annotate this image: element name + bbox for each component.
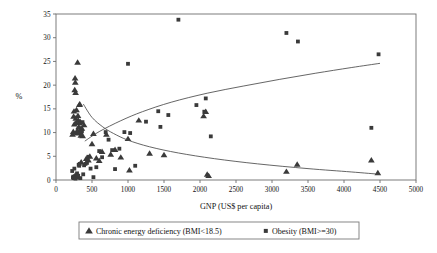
data-point-square xyxy=(72,167,76,171)
data-point-square xyxy=(195,103,199,107)
data-point-square xyxy=(144,120,148,124)
data-point-triangle xyxy=(294,161,301,166)
x-tick-label: 0 xyxy=(54,186,58,194)
x-tick-label: 2000 xyxy=(193,186,208,194)
data-point-square xyxy=(209,134,213,138)
data-point-square xyxy=(202,110,206,114)
data-point-triangle xyxy=(117,154,124,159)
data-point-triangle xyxy=(107,151,114,156)
x-tick-label: 5000 xyxy=(409,186,424,194)
data-point-square xyxy=(104,130,108,134)
data-point-square xyxy=(126,62,130,66)
data-point-square xyxy=(92,175,96,179)
data-point-square xyxy=(117,147,121,151)
data-point-square xyxy=(123,130,127,134)
data-point-square xyxy=(89,167,93,171)
data-point-triangle xyxy=(89,141,96,146)
y-tick-label: 25 xyxy=(43,58,51,66)
x-tick-label: 500 xyxy=(87,186,98,194)
data-point-square xyxy=(79,133,83,137)
trendline-obesity xyxy=(85,63,380,141)
data-point-square xyxy=(166,113,170,117)
data-point-square xyxy=(110,148,114,152)
data-point-square xyxy=(107,138,111,142)
data-point-triangle xyxy=(135,117,142,122)
data-point-square xyxy=(113,167,117,171)
x-tick-label: 1500 xyxy=(157,186,172,194)
data-point-square xyxy=(285,31,289,35)
data-point-triangle xyxy=(74,59,81,64)
y-tick-label: 15 xyxy=(43,105,51,113)
x-tick-label: 1000 xyxy=(121,186,136,194)
x-tick-label: 2500 xyxy=(229,186,244,194)
x-axis-title: GNP (US$ per capita) xyxy=(200,202,273,211)
x-tick-label: 4000 xyxy=(337,186,352,194)
y-tick-label: 20 xyxy=(43,82,51,90)
y-axis-title: % xyxy=(16,92,23,101)
data-point-triangle xyxy=(161,152,168,157)
scatter-chart: 05101520253035 0500100015002000250030003… xyxy=(0,0,437,253)
data-point-triangle xyxy=(126,167,133,172)
data-point-square xyxy=(78,162,82,166)
data-point-triangle xyxy=(146,150,153,155)
data-point-square xyxy=(377,52,381,56)
data-point-square xyxy=(81,172,85,176)
data-point-triangle xyxy=(283,168,290,173)
data-point-square xyxy=(156,109,160,113)
legend-square-icon xyxy=(264,229,268,233)
data-point-square xyxy=(128,131,132,135)
data-point-square xyxy=(369,126,373,130)
x-axis-tick-labels: 0500100015002000250030003500400045005000 xyxy=(54,186,423,194)
legend: Chronic energy deficiency (BMI<18.5) Obe… xyxy=(79,222,359,239)
x-tick-label: 4500 xyxy=(373,186,388,194)
data-point-square xyxy=(80,129,84,133)
y-tick-label: 35 xyxy=(43,11,51,19)
legend-marker-square xyxy=(264,229,268,233)
data-point-square xyxy=(81,120,85,124)
data-point-square xyxy=(78,176,82,180)
data-point-square xyxy=(87,155,91,159)
y-tick-label: 10 xyxy=(43,129,51,137)
data-point-square xyxy=(97,149,101,153)
legend-label-obesity: Obesity (BMI>=30) xyxy=(272,227,337,236)
data-point-square xyxy=(159,125,163,129)
y-tick-label: 0 xyxy=(47,177,51,185)
data-point-square xyxy=(94,165,98,169)
x-tick-label: 3000 xyxy=(265,186,280,194)
chart-canvas: 05101520253035 0500100015002000250030003… xyxy=(0,0,437,253)
y-axis-tick-labels: 05101520253035 xyxy=(43,11,51,185)
data-point-square xyxy=(100,155,104,159)
data-point-triangle xyxy=(368,157,375,162)
y-tick-label: 30 xyxy=(43,34,51,42)
legend-label-chronic-energy-deficiency: Chronic energy deficiency (BMI<18.5) xyxy=(96,227,222,236)
data-point-triangle xyxy=(76,101,83,106)
data-point-square xyxy=(204,97,208,101)
data-point-square xyxy=(133,164,137,168)
x-tick-label: 3500 xyxy=(301,186,316,194)
series-points-obesity xyxy=(70,18,380,181)
y-tick-label: 5 xyxy=(47,153,51,161)
data-point-square xyxy=(296,40,300,44)
data-point-square xyxy=(85,161,89,165)
data-point-square xyxy=(177,18,181,22)
